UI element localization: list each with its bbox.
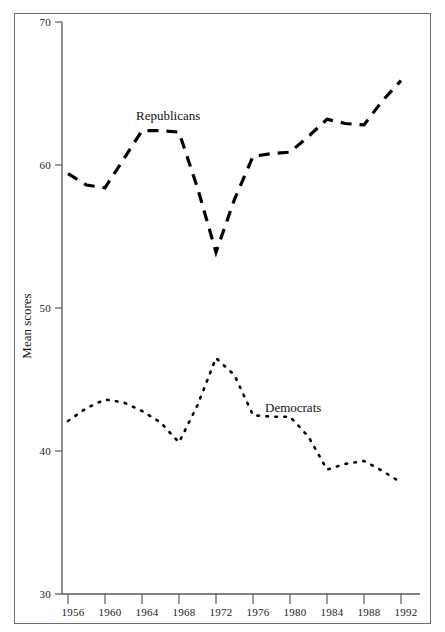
- x-tick-label-1956: 1956: [53, 606, 93, 618]
- y-tick-label-60: 60: [27, 159, 51, 171]
- x-axis-ticks: [68, 594, 401, 604]
- axis-lines: [62, 22, 420, 594]
- y-axis-ticks: [55, 22, 62, 594]
- y-tick-label-40: 40: [27, 445, 51, 457]
- series-line-republicans: [68, 81, 401, 253]
- chart-plot-area: [0, 0, 445, 632]
- x-tick-label-1960: 1960: [90, 606, 130, 618]
- x-tick-label-1980: 1980: [275, 606, 315, 618]
- chart-page: Mean scores 70 60 50 40 30 1956 1960 196…: [0, 0, 445, 632]
- y-tick-label-70: 70: [27, 16, 51, 28]
- x-tick-label-1972: 1972: [201, 606, 241, 618]
- series-annotation-republicans: Republicans: [136, 108, 200, 124]
- series-line-democrats: [68, 358, 401, 482]
- x-tick-label-1988: 1988: [349, 606, 389, 618]
- x-tick-label-1992: 1992: [386, 606, 426, 618]
- x-tick-label-1964: 1964: [127, 606, 167, 618]
- x-tick-label-1968: 1968: [164, 606, 204, 618]
- y-axis-title: Mean scores: [19, 281, 35, 371]
- y-tick-label-50: 50: [27, 302, 51, 314]
- series-annotation-democrats: Democrats: [265, 400, 321, 416]
- x-tick-label-1984: 1984: [312, 606, 352, 618]
- x-tick-label-1976: 1976: [238, 606, 278, 618]
- y-tick-label-30: 30: [27, 588, 51, 600]
